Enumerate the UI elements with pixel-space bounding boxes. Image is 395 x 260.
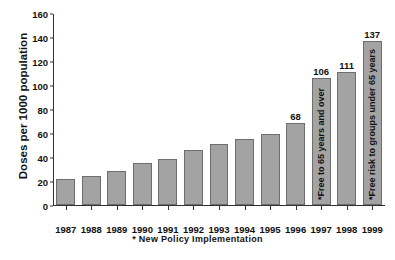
y-tick-label: 100 (32, 81, 48, 92)
bar-annotation-1997: *Free to 65 years and over (316, 88, 326, 200)
y-tick-mark (50, 206, 53, 207)
y-tick-label: 80 (37, 105, 48, 116)
x-tick-mark (117, 206, 118, 210)
y-tick-label: 120 (32, 57, 48, 68)
x-tick-mark (219, 206, 220, 210)
bar-1997: 106*Free to 65 years and over (312, 78, 331, 205)
bar-value-label-1997: 106 (313, 66, 329, 77)
y-tick-mark (50, 110, 53, 111)
y-axis-line (53, 14, 54, 206)
x-tick-mark (193, 206, 194, 210)
bar-1989 (107, 171, 126, 205)
y-tick-label: 160 (32, 9, 48, 20)
x-tick-mark (91, 206, 92, 210)
bar-1993 (210, 144, 229, 205)
bar-1998: 111 (337, 72, 356, 205)
x-tick-mark (168, 206, 169, 210)
y-tick-mark (50, 38, 53, 39)
bar-value-label-1999: 137 (364, 29, 380, 40)
y-tick-label: 20 (37, 177, 48, 188)
y-tick-label: 140 (32, 33, 48, 44)
y-tick-label: 40 (37, 153, 48, 164)
y-tick-mark (50, 62, 53, 63)
bar-1990 (133, 163, 152, 205)
x-tick-mark (245, 206, 246, 210)
bar-annotation-1999: *Free risk to groups under 65 years (367, 49, 377, 200)
bar-value-label-1996: 68 (290, 111, 301, 122)
x-tick-mark (270, 206, 271, 210)
y-tick-mark (50, 182, 53, 183)
x-tick-mark (372, 206, 373, 210)
bar-1996: 68 (286, 123, 305, 205)
x-tick-mark (347, 206, 348, 210)
bar-1988 (82, 176, 101, 205)
y-tick-label: 60 (37, 129, 48, 140)
bar-value-label-1998: 111 (339, 60, 354, 71)
bar-1987 (56, 179, 75, 205)
chart-footnote: * New Policy Implementation (0, 234, 395, 244)
bar-1994 (235, 139, 254, 205)
x-tick-mark (296, 206, 297, 210)
y-tick-mark (50, 86, 53, 87)
bar-1999: 137*Free risk to groups under 65 years (363, 41, 382, 205)
x-tick-mark (321, 206, 322, 210)
plot-area: 020406080100120140160 68106*Free to 65 y… (53, 14, 385, 206)
x-tick-mark (142, 206, 143, 210)
bar-chart-figure: Doses per 1000 population 02040608010012… (0, 0, 395, 260)
y-tick-mark (50, 14, 53, 15)
bar-1995 (261, 134, 280, 205)
bar-1992 (184, 150, 203, 205)
y-tick-mark (50, 158, 53, 159)
y-tick-label: 0 (43, 201, 48, 212)
x-tick-mark (66, 206, 67, 210)
y-tick-mark (50, 134, 53, 135)
y-axis-title: Doses per 1000 population (17, 6, 29, 206)
bar-1991 (158, 159, 177, 205)
